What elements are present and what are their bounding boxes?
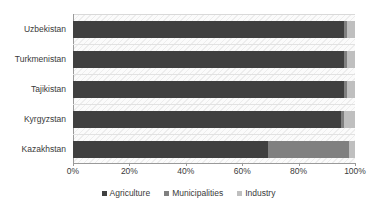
y-axis-label-kazakhstan: Kazakhstan [0, 144, 66, 154]
legend-item-municipalities[interactable]: Municipalities [164, 188, 223, 198]
y-axis-label-kyrgyzstan: Kyrgyzstan [0, 114, 66, 124]
x-axis-tick-label: 80% [290, 166, 307, 176]
x-axis-tick-labels: 0%20%40%60%80%100% [73, 166, 355, 180]
x-axis-tick-label: 40% [177, 166, 194, 176]
plot-bottom-border [73, 163, 355, 164]
bar-segment-agriculture[interactable] [73, 141, 268, 158]
bar-tajikistan[interactable] [73, 81, 355, 98]
bar-segment-industry[interactable] [347, 81, 355, 98]
gridline [73, 44, 355, 45]
bar-segment-agriculture[interactable] [73, 111, 341, 128]
y-axis-label-turkmenistan: Turkmenistan [0, 54, 66, 64]
x-axis-tick-label: 0% [67, 166, 79, 176]
chart-legend: AgricultureMunicipalitiesIndustry [0, 188, 377, 198]
x-axis-tick-label: 100% [344, 166, 366, 176]
legend-label: Agriculture [110, 188, 151, 198]
bar-segment-municipalities[interactable] [268, 141, 350, 158]
chart-container: UzbekistanTurkmenistanTajikistanKyrgyzst… [0, 0, 377, 211]
bar-uzbekistan[interactable] [73, 21, 355, 38]
bar-segment-industry[interactable] [347, 51, 355, 68]
gridline [73, 104, 355, 105]
square-marker-icon [164, 191, 169, 196]
bar-kazakhstan[interactable] [73, 141, 355, 158]
x-axis-tick-label: 20% [121, 166, 138, 176]
square-marker-icon [102, 191, 107, 196]
square-marker-icon [237, 191, 242, 196]
y-axis-category-labels: UzbekistanTurkmenistanTajikistanKyrgyzst… [0, 14, 70, 164]
bar-segment-agriculture[interactable] [73, 81, 344, 98]
bar-segment-agriculture[interactable] [73, 21, 344, 38]
bar-segment-industry[interactable] [344, 111, 355, 128]
gridline [73, 74, 355, 75]
bar-segment-agriculture[interactable] [73, 51, 344, 68]
bar-segment-industry[interactable] [347, 21, 355, 38]
legend-item-agriculture[interactable]: Agriculture [102, 188, 151, 198]
legend-item-industry[interactable]: Industry [237, 188, 275, 198]
y-axis-label-tajikistan: Tajikistan [0, 84, 66, 94]
y-axis-label-uzbekistan: Uzbekistan [0, 24, 66, 34]
gridline [73, 134, 355, 135]
plot-area [73, 14, 355, 164]
legend-label: Municipalities [172, 188, 223, 198]
x-axis-tick-label: 60% [234, 166, 251, 176]
legend-label: Industry [245, 188, 275, 198]
plot-top-border [73, 14, 355, 15]
bar-turkmenistan[interactable] [73, 51, 355, 68]
bar-segment-industry[interactable] [349, 141, 355, 158]
bar-kyrgyzstan[interactable] [73, 111, 355, 128]
